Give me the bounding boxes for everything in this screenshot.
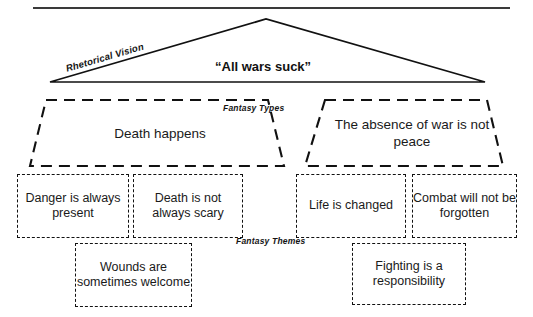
fantasy-themes-label: Fantasy Themes xyxy=(236,236,305,246)
fantasy-theme-box-right-2: Combat will not be forgotten xyxy=(412,174,517,238)
fantasy-theme-box-left-2: Death is not always scary xyxy=(133,174,243,238)
fantasy-type-text-left: Death happens xyxy=(60,112,260,156)
fantasy-theme-box-left-1: Danger is always present xyxy=(17,174,129,238)
fantasy-theme-box-left-3: Wounds are sometimes welcome xyxy=(75,243,192,307)
fantasy-type-text-right: The absence of war is not peace xyxy=(322,108,502,160)
diagram-canvas: Rhetorical Vision “All wars suck” Fantas… xyxy=(0,0,533,317)
fantasy-theme-box-right-1: Life is changed xyxy=(296,174,406,238)
vision-statement-text: “All wars suck” xyxy=(215,59,311,74)
fantasy-theme-box-right-3: Fighting is a responsibility xyxy=(352,243,466,305)
